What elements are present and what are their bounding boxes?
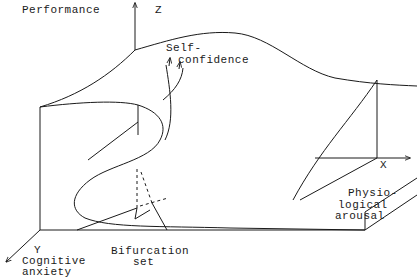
y-axis-label-2: anxiety — [22, 267, 72, 278]
bifurcation-label-2: set — [133, 257, 154, 268]
z-axis-letter: Z — [155, 5, 162, 16]
projection-dash-3 — [140, 198, 168, 206]
surface-front-top — [40, 102, 163, 140]
fold-back-curve — [165, 65, 171, 140]
x-axis-letter: X — [380, 160, 387, 171]
fold-back-curve-2 — [163, 68, 183, 100]
surface-fold-curve — [74, 140, 365, 230]
self-confidence-label-2: confidence — [178, 55, 249, 66]
fold-diagonal — [88, 122, 138, 160]
projection-dash-2 — [141, 172, 152, 203]
self-confidence-arrow-1 — [169, 58, 170, 66]
cusp-catastrophe-diagram — [0, 0, 417, 278]
self-confidence-label-1: Self- — [166, 43, 202, 54]
floor-line — [77, 208, 137, 230]
x-axis-label-3: arousal — [335, 211, 385, 222]
surface-left-edge — [40, 50, 135, 107]
bifurcation-cusp — [135, 208, 150, 219]
surface-right-slope — [293, 80, 377, 200]
z-axis-label: Performance — [22, 5, 100, 16]
x-axis-label-1: Physio- — [348, 188, 398, 199]
